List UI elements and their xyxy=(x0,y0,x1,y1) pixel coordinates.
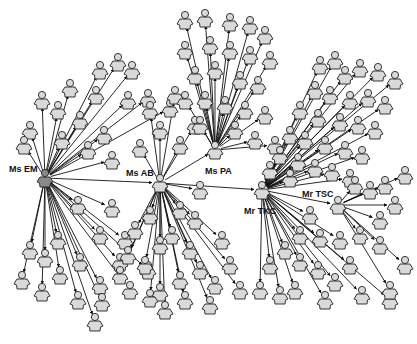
person-icon xyxy=(202,36,218,54)
person-icon xyxy=(164,226,180,244)
person-icon xyxy=(120,91,136,109)
person-icon xyxy=(214,231,230,249)
edge-arrow xyxy=(344,207,373,217)
person-icon xyxy=(317,136,333,154)
person-icon xyxy=(222,41,238,59)
person-icon xyxy=(372,236,388,254)
person-icon xyxy=(182,241,198,259)
person-icon xyxy=(87,313,103,331)
person-icon xyxy=(52,266,68,284)
person-icon xyxy=(282,126,298,144)
person-icon xyxy=(327,273,343,291)
person-icon xyxy=(207,61,223,79)
edge-arrow xyxy=(50,154,81,174)
person-icon xyxy=(34,91,50,109)
person-icon xyxy=(222,13,238,31)
person-icon xyxy=(352,226,368,244)
person-icon xyxy=(232,71,248,89)
person-icon xyxy=(104,199,120,217)
person-icon xyxy=(22,241,38,259)
person-icon xyxy=(137,256,153,274)
person-icon xyxy=(372,211,388,229)
person-icon xyxy=(177,11,193,29)
person-icon xyxy=(360,89,376,107)
person-icon xyxy=(262,51,278,69)
person-icon xyxy=(287,281,303,299)
person-icon xyxy=(110,53,126,71)
person-icon xyxy=(124,61,140,79)
person-icon xyxy=(312,229,328,247)
person-icon xyxy=(332,231,348,249)
person-icon xyxy=(312,56,328,74)
person-icon xyxy=(382,281,398,299)
person-icon xyxy=(352,59,368,77)
person-icon xyxy=(96,126,112,144)
person-icon xyxy=(262,256,278,274)
person-icon xyxy=(310,261,326,279)
person-icon xyxy=(297,131,313,149)
person-icon xyxy=(370,63,386,81)
person-icon xyxy=(152,121,168,139)
person-icon xyxy=(172,201,188,219)
person-icon xyxy=(302,206,318,224)
person-icon xyxy=(172,136,188,154)
person-icon xyxy=(192,261,208,279)
person-icon xyxy=(227,121,243,139)
person-icon xyxy=(232,281,248,299)
network-diagram: Ms EMMs ABMs PAMr TKCMr TSC xyxy=(0,0,417,344)
person-icon xyxy=(187,66,203,84)
person-icon xyxy=(377,176,393,194)
person-icon xyxy=(317,291,333,309)
person-icon xyxy=(342,91,358,109)
hub-person-icon xyxy=(37,169,53,187)
hub-label: Mr TKC xyxy=(244,206,276,216)
hub-label: Ms AB xyxy=(126,168,154,178)
person-icon xyxy=(197,9,213,27)
hub-label: Mr TSC xyxy=(302,189,334,199)
hub-label: Ms EM xyxy=(9,164,38,174)
person-icon xyxy=(37,249,53,267)
person-icon xyxy=(104,151,120,169)
edge-arrow xyxy=(342,191,350,200)
person-icon xyxy=(350,116,366,134)
person-icon xyxy=(322,86,338,104)
person-icon xyxy=(292,253,308,271)
person-icon xyxy=(242,16,258,34)
person-icon xyxy=(92,61,108,79)
person-icon xyxy=(272,286,288,304)
edge-arrow xyxy=(165,154,208,180)
person-icon xyxy=(237,101,253,119)
person-icon xyxy=(217,96,233,114)
person-icon xyxy=(94,293,110,311)
person-icon xyxy=(292,101,308,119)
person-icon xyxy=(207,276,223,294)
person-icon xyxy=(92,276,108,294)
person-icon xyxy=(387,71,403,89)
person-icon xyxy=(257,106,273,124)
person-icon xyxy=(14,271,30,289)
person-icon xyxy=(132,139,148,157)
person-icon xyxy=(337,141,353,159)
person-icon xyxy=(50,231,66,249)
person-icon xyxy=(257,26,273,44)
person-icon xyxy=(324,163,340,181)
person-icon xyxy=(157,301,173,319)
hub-person-icon xyxy=(152,174,168,192)
edge-arrow xyxy=(42,184,45,284)
person-icon xyxy=(80,141,96,159)
person-icon xyxy=(307,81,323,99)
person-icon xyxy=(247,131,263,149)
person-icon xyxy=(327,51,343,69)
person-icon xyxy=(367,121,383,139)
person-icon xyxy=(34,283,50,301)
person-icon xyxy=(252,281,268,299)
person-icon xyxy=(397,166,413,184)
person-icon xyxy=(354,146,370,164)
person-icon xyxy=(192,181,208,199)
person-icon xyxy=(397,256,413,274)
person-icon xyxy=(250,76,266,94)
person-icon xyxy=(62,79,78,97)
person-icon xyxy=(70,291,86,309)
person-icon xyxy=(387,196,403,214)
person-icon xyxy=(177,291,193,309)
